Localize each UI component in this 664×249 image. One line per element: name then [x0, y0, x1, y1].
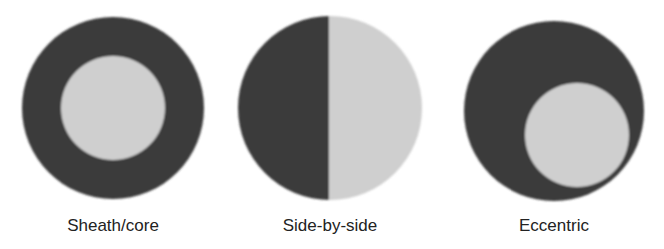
- bicomponent-fiber-diagram: [0, 0, 664, 249]
- eccentric-inner-circle: [525, 83, 629, 187]
- left-half-component: [238, 16, 329, 200]
- core-inner-circle: [61, 56, 165, 160]
- side-by-side-label: Side-by-side: [230, 216, 430, 236]
- side-by-side-diagram: [238, 16, 422, 200]
- sheath-core-diagram: [22, 17, 204, 199]
- sheath-core-label: Sheath/core: [13, 216, 213, 236]
- eccentric-diagram: [464, 21, 644, 201]
- right-half-component: [329, 16, 422, 200]
- eccentric-label: Eccentric: [454, 216, 654, 236]
